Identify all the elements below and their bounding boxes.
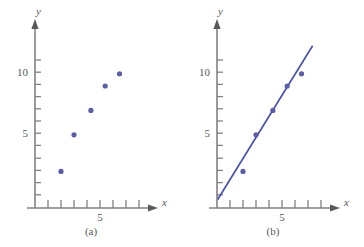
x-tick-label-5: 5 (97, 211, 103, 223)
data-point (88, 108, 93, 113)
x-axis-title: x (343, 196, 349, 208)
x-ticks-a (48, 200, 139, 208)
x-tick-label-5: 5 (279, 211, 285, 223)
y-axis-title: y (217, 5, 223, 17)
data-point (253, 132, 258, 137)
data-point (71, 132, 76, 137)
y-ticks-a (35, 60, 41, 195)
y-tick-label-5: 5 (205, 127, 211, 139)
x-ticks-b (230, 200, 321, 208)
x-axis-title: x (161, 196, 167, 208)
data-point (270, 108, 275, 113)
figure-two-scatter-plots: 10 5 5 y x (a) (0, 0, 364, 247)
data-point (240, 169, 245, 174)
caption-a: (a) (0, 225, 182, 237)
data-points-a (58, 71, 122, 174)
data-point (117, 71, 122, 76)
caption-b: (b) (182, 225, 364, 237)
y-tick-label-10: 10 (199, 66, 211, 78)
panel-a: 10 5 5 y x (a) (0, 0, 182, 247)
y-ticks-b (217, 60, 223, 195)
plot-b: 10 5 5 y x (182, 0, 364, 247)
data-point (103, 83, 108, 88)
y-axis-a (31, 19, 38, 208)
y-tick-label-10: 10 (17, 66, 29, 78)
data-point (299, 71, 304, 76)
y-axis-title: y (35, 5, 41, 17)
regression-line (218, 46, 313, 200)
y-axis-b (213, 19, 220, 208)
data-points-b (240, 71, 304, 174)
panel-b: 10 5 5 y x (b) (182, 0, 364, 247)
y-tick-label-5: 5 (23, 127, 29, 139)
data-point (285, 83, 290, 88)
plot-a: 10 5 5 y x (0, 0, 182, 247)
data-point (58, 169, 63, 174)
